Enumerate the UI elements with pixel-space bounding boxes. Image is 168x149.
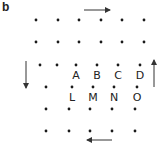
grid-dot	[111, 130, 114, 133]
point-label-d: D	[136, 69, 144, 82]
grid-dot	[111, 108, 114, 111]
grid-dot	[45, 130, 48, 133]
grid-dot	[100, 19, 103, 22]
grid-dot	[134, 130, 137, 133]
grid-dot	[139, 64, 142, 67]
dot-grid-diagram: ABCDLMNO	[0, 0, 168, 149]
grid-dot	[35, 19, 38, 22]
grid-dot	[121, 41, 124, 44]
grid-dot	[71, 86, 74, 89]
grid-dot	[117, 64, 120, 67]
grid-dot	[78, 41, 81, 44]
point-label-c: C	[114, 69, 122, 82]
grid-dot	[143, 41, 146, 44]
grid-dot	[45, 108, 48, 111]
grid-dot	[89, 108, 92, 111]
grid-dot	[78, 19, 81, 22]
grid-labels: ABCDLMNO	[69, 69, 144, 104]
grid-dot	[100, 41, 103, 44]
grid-dot	[56, 64, 59, 67]
grid-dot	[134, 108, 137, 111]
point-label-n: N	[110, 91, 118, 104]
grid-dot	[96, 64, 99, 67]
grid-dot	[68, 108, 71, 111]
grid-dot	[136, 86, 139, 89]
grid-dot	[39, 64, 42, 67]
grid-dot	[68, 130, 71, 133]
grid-dot	[89, 130, 92, 133]
grid-dot	[121, 19, 124, 22]
grid-dot	[75, 64, 78, 67]
grid-dot	[57, 19, 60, 22]
point-label-b: B	[93, 69, 101, 82]
point-label-m: M	[88, 91, 98, 104]
grid-dot	[113, 86, 116, 89]
point-label-a: A	[72, 69, 80, 82]
grid-dot	[92, 86, 95, 89]
grid-dots	[35, 19, 146, 133]
grid-dot	[45, 86, 48, 89]
grid-dot	[57, 41, 60, 44]
point-label-o: O	[133, 91, 142, 104]
point-label-l: L	[69, 91, 76, 104]
grid-dot	[143, 19, 146, 22]
grid-dot	[35, 41, 38, 44]
